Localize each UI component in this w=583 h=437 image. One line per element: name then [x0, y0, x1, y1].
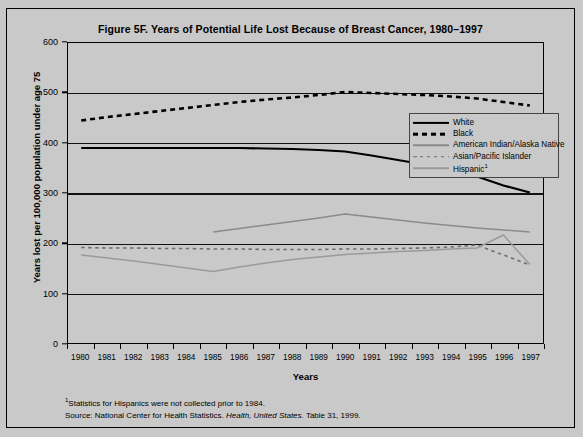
x-tick-mark [544, 344, 545, 349]
x-axis-title: Years [67, 371, 544, 382]
footnotes: 1Statistics for Hispanics were not colle… [65, 394, 535, 423]
x-tick-label: 1982 [124, 352, 142, 362]
x-tick-mark [147, 344, 148, 349]
x-tick-mark [465, 344, 466, 349]
x-tick-mark [359, 344, 360, 349]
x-tick-mark [438, 344, 439, 349]
y-tick-label: 200 [43, 238, 58, 248]
x-tick-mark [120, 344, 121, 349]
x-tick-label: 1993 [416, 352, 434, 362]
plot-area [67, 42, 544, 344]
x-tick-label: 1984 [177, 352, 195, 362]
legend-label: Hispanic1 [453, 163, 488, 174]
figure-container: Figure 5F. Years of Potential Life Lost … [6, 8, 575, 428]
x-tick-label: 1995 [469, 352, 487, 362]
legend-swatch [413, 118, 449, 128]
x-tick-label: 1994 [442, 352, 460, 362]
legend-item: Asian/Pacific Islander [413, 151, 554, 162]
x-tick-label: 1983 [151, 352, 169, 362]
legend-item: American Indian/Alaska Native [413, 140, 554, 151]
x-tick-label: 1981 [98, 352, 116, 362]
x-tick-label: 1990 [336, 352, 354, 362]
series-lines [68, 43, 543, 343]
legend-item: White [413, 117, 554, 128]
y-tick-label: 0 [53, 339, 58, 349]
x-tick-label: 1986 [230, 352, 248, 362]
chart-title: Figure 5F. Years of Potential Life Lost … [7, 23, 574, 35]
x-tick-label: 1985 [204, 352, 222, 362]
x-tick-mark [332, 344, 333, 349]
x-tick-mark [491, 344, 492, 349]
footnote-source: Source: National Center for Health Stati… [65, 410, 535, 423]
x-tick-label: 1992 [389, 352, 407, 362]
x-tick-label: 1989 [310, 352, 328, 362]
x-tick-mark [67, 344, 68, 349]
x-tick-mark [518, 344, 519, 349]
legend-swatch [413, 129, 449, 139]
x-tick-mark [173, 344, 174, 349]
source-publication: Health, United States. [226, 411, 304, 420]
x-tick-mark [253, 344, 254, 349]
y-tick-label: 600 [43, 37, 58, 47]
legend-label: American Indian/Alaska Native [453, 141, 565, 149]
y-tick-label: 300 [43, 188, 58, 198]
chart-legend: WhiteBlackAmerican Indian/Alaska NativeA… [409, 113, 559, 178]
y-tick-label: 500 [43, 87, 58, 97]
legend-label: Asian/Pacific Islander [453, 153, 531, 161]
series-line [213, 214, 530, 232]
series-line [81, 235, 530, 271]
legend-item: Hispanic1 [413, 163, 554, 174]
x-tick-mark [200, 344, 201, 349]
legend-label: Black [453, 130, 473, 138]
x-tick-mark [94, 344, 95, 349]
y-axis-ticks: 0100200300400500600 [7, 42, 67, 344]
footnote-hispanics: 1Statistics for Hispanics were not colle… [65, 394, 535, 410]
footnote-hispanics-text: Statistics for Hispanics were not collec… [68, 399, 265, 408]
source-suffix: Table 31, 1999. [304, 411, 361, 420]
source-prefix: Source: National Center for Health Stati… [65, 411, 226, 420]
x-tick-mark [226, 344, 227, 349]
y-tick-label: 400 [43, 138, 58, 148]
x-tick-label: 1996 [495, 352, 513, 362]
legend-swatch [413, 140, 449, 150]
x-tick-mark [385, 344, 386, 349]
y-tick-label: 100 [43, 289, 58, 299]
x-tick-mark [279, 344, 280, 349]
x-tick-label: 1991 [363, 352, 381, 362]
legend-label: White [453, 119, 474, 127]
legend-swatch [413, 152, 449, 162]
x-tick-label: 1997 [522, 352, 540, 362]
legend-swatch [413, 163, 449, 173]
x-tick-mark [412, 344, 413, 349]
x-tick-label: 1987 [257, 352, 275, 362]
legend-item: Black [413, 128, 554, 139]
x-tick-mark [306, 344, 307, 349]
x-tick-label: 1980 [71, 352, 89, 362]
x-tick-label: 1988 [283, 352, 301, 362]
legend-footnote-marker: 1 [484, 163, 487, 169]
x-axis-ticks: 1980198119821983198419851986198719881989… [67, 344, 544, 370]
